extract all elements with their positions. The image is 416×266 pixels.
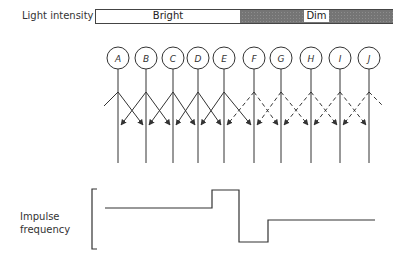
inhibition-arrow	[149, 92, 173, 125]
receptor-label: D	[195, 54, 202, 64]
impulse-axis-bracket	[92, 189, 97, 249]
inhibition-arrow	[173, 92, 195, 125]
receptor-label: J	[366, 54, 371, 64]
inhibition-arrow	[369, 92, 383, 106]
receptor-label: B	[143, 54, 149, 64]
receptor-label: G	[278, 54, 285, 64]
impulse-frequency-trace	[105, 190, 375, 242]
receptor-label: F	[251, 54, 257, 64]
inhibition-arrow	[343, 92, 369, 125]
inhibition-arrow	[340, 92, 366, 125]
impulse-frequency-label: Impulse frequency	[20, 210, 70, 236]
inhibition-arrow	[314, 92, 340, 125]
inhibition-arrow	[254, 92, 278, 125]
receptor-label: H	[308, 54, 315, 64]
inhibition-arrow	[284, 92, 311, 125]
inhibition-arrow	[311, 92, 337, 125]
inhibition-arrow	[257, 92, 281, 125]
inhibition-arrow	[227, 92, 254, 125]
receptor-label: A	[114, 54, 121, 64]
inhibition-arrow	[121, 92, 146, 125]
inhibition-arrow	[198, 92, 221, 125]
inhibition-arrow	[281, 92, 308, 125]
receptor-label: I	[339, 54, 342, 64]
inhibition-arrow	[118, 92, 143, 125]
receptor-label: E	[221, 54, 227, 64]
inhibition-arrow	[146, 92, 170, 125]
receptor-label: C	[170, 54, 177, 64]
inhibition-arrow	[201, 92, 224, 125]
inhibition-arrow	[176, 92, 198, 125]
inhibition-arrow	[104, 92, 118, 106]
inhibition-arrow	[224, 92, 251, 125]
